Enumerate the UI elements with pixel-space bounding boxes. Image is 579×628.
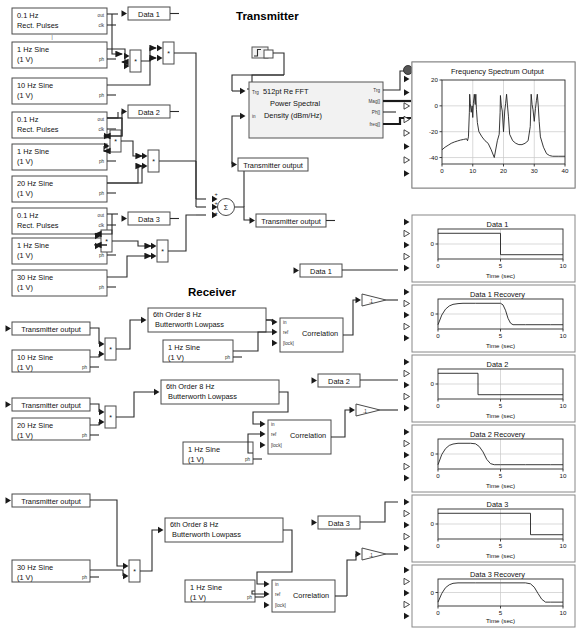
tag-transmitter-output-main-input-arrow xyxy=(250,217,256,223)
source-block-1hz-sine-3-port-ph: ph xyxy=(99,253,105,258)
source-block-0.1hz-rect-pulses-2-port-out: out xyxy=(98,117,105,122)
plot-xticklabel-data2: 10 xyxy=(560,402,567,409)
plot-xticklabel-data3_recovery: 0 xyxy=(436,609,440,616)
source-block-1hz-sine-1-port-ph: ph xyxy=(99,57,105,62)
corr-rx3-lock-arrow xyxy=(264,602,270,608)
tag-transmitter-output-main-label: Transmitter output xyxy=(261,217,321,226)
source-block-0.1hz-rect-pulses-1-line2: Rect. Pulses xyxy=(17,21,59,30)
multiplier-rx2-in2-arrow xyxy=(99,419,105,425)
scope-input-port xyxy=(404,613,410,619)
plot-yticklabel-data3: 0 xyxy=(431,520,435,527)
source-block-1hz-sine-1-line2: (1 V) xyxy=(17,55,33,64)
plot-title-data3: Data 3 xyxy=(487,500,509,509)
plot-yticklabel-spectrum: -20 xyxy=(429,128,439,135)
source-block-30hz-sine-3-line1: 30 Hz Sine xyxy=(17,273,53,282)
source-block-0.1hz-rect-pulses-3-line2: Rect. Pulses xyxy=(17,221,59,230)
scope-input-port xyxy=(404,130,410,136)
multiplier-rx1-in1-arrow xyxy=(99,341,105,347)
scope-input-port xyxy=(404,359,410,365)
fft-out-port-trg: Trg xyxy=(373,88,380,93)
goto-tag-data-1-tx-input-arrow xyxy=(122,10,128,16)
from-tag-data-2-rx-label: Data 2 xyxy=(328,377,350,386)
wire-src1-to-mul1a xyxy=(107,49,125,62)
from-tag-data-2-rx-input-arrow xyxy=(312,377,318,383)
correlation-rx2-port-in: in xyxy=(271,422,275,427)
correlation-rx1-port-ref: ref xyxy=(283,330,289,335)
corr-rx2-ref-arrow xyxy=(260,431,266,437)
scope-input-port xyxy=(404,242,410,248)
correlation-rx3-port-in: in xyxy=(275,582,279,587)
scope-input-port xyxy=(404,312,410,318)
plot-xticklabel-data2_recovery: 5 xyxy=(499,472,503,479)
wire-src3-b xyxy=(107,112,122,118)
corr-rx1-ref-arrow xyxy=(272,329,278,335)
plot-xticklabel-data3: 10 xyxy=(560,542,567,549)
filter-rx1-line1: 6th Order 8 Hz xyxy=(153,310,202,319)
scope-input-port xyxy=(404,323,410,329)
multiplier-tx-2b-symbol: * xyxy=(152,158,155,165)
scope-input-port xyxy=(404,590,410,596)
scope-input-port xyxy=(404,475,410,481)
source-block-1hz-sine-3-line2: (1 V) xyxy=(17,251,33,260)
plot-xticklabel-data3: 0 xyxy=(436,542,440,549)
multiplier-tx-1a-in2-arrow xyxy=(124,63,130,69)
fft-in-port-in: in xyxy=(252,114,256,119)
wire-src0-to-mul1a xyxy=(112,14,122,54)
plot-xticklabel-data1: 0 xyxy=(436,262,440,269)
correlation-rx3-port-lock: [lock] xyxy=(275,603,286,608)
source-block-0.1hz-rect-pulses-2-line2: Rect. Pulses xyxy=(17,125,59,134)
plot-xlabel-data2: Time (sec) xyxy=(486,412,515,419)
plot-xticklabel-data2: 5 xyxy=(499,402,503,409)
source-block-20hz-sine-2-line2: (1 V) xyxy=(17,189,33,198)
goto-tag-data-3-tx-label: Data 3 xyxy=(138,215,160,224)
plot-xticklabel-data2: 0 xyxy=(436,402,440,409)
gain-block-rx3[interactable] xyxy=(362,548,386,560)
multiplier-rx2-in1-arrow xyxy=(99,409,105,415)
wire-rx2-sine-to-mul xyxy=(90,422,99,425)
source-block-30hz-sine-3-port-ph: ph xyxy=(99,285,105,290)
plot-xticklabel-data1: 10 xyxy=(560,262,567,269)
wire-src3-a xyxy=(107,112,118,118)
source-block-10hz-sine-1-line1: 10 Hz Sine xyxy=(17,81,53,90)
correlation-rx2-port-ref: ref xyxy=(271,432,277,437)
wire-mul3b-to-sum xyxy=(168,215,196,251)
gain-block-rx1-label: .1 xyxy=(369,299,373,304)
correlation-rx1-port-lock: [lock] xyxy=(283,341,294,346)
corr-rx2-in-arrow xyxy=(260,421,266,427)
diagram-canvas: Transmitter0.1 HzRect. Pulsesoutclk1 Hz … xyxy=(0,0,579,628)
plot-title-data1: Data 1 xyxy=(487,220,509,229)
multiplier-rx1-symbol: * xyxy=(109,346,112,353)
scope-input-port xyxy=(404,499,410,505)
gain-block-rx1[interactable] xyxy=(362,294,386,306)
filter-rx1-line2: Butterworth Lowpass xyxy=(155,320,224,329)
from-tag-data-1-rx-input-arrow xyxy=(294,267,300,273)
plot-xticklabel-data2_recovery: 10 xyxy=(560,472,567,479)
scope-input-port xyxy=(404,567,410,573)
plot-xlabel-data3: Time (sec) xyxy=(486,552,515,559)
wire-mul1a-to-mul1b xyxy=(141,48,156,61)
from-tag-transmitter-output-rx1-input-arrow xyxy=(6,325,12,331)
plot-xticklabel-data1_recovery: 0 xyxy=(436,332,440,339)
source-block-1hz-sine-2-line2: (1 V) xyxy=(17,157,33,166)
plot-yticklabel-spectrum: 20 xyxy=(431,76,438,83)
fft-line1: 512pt Re FFT xyxy=(263,87,309,96)
scope-input-port xyxy=(404,300,410,306)
wire-src5-to-mul2b xyxy=(107,166,142,183)
source-block-30hz-sine-rx3-line2: (1 V) xyxy=(17,573,33,582)
wire-rx1-ref-to-corr xyxy=(233,332,272,351)
scope-input-port xyxy=(404,219,410,225)
wire-mul1b-to-sum xyxy=(174,53,196,199)
plot-xticklabel-spectrum: 30 xyxy=(531,167,538,174)
source-block-30hz-sine-rx3-line1: 30 Hz Sine xyxy=(17,563,53,572)
corr-rx2-lock-arrow xyxy=(260,442,266,448)
goto-tag-data-3-tx-input-arrow xyxy=(122,215,128,221)
from-tag-transmitter-output-rx1-label: Transmitter output xyxy=(21,325,81,334)
plot-yticklabel-data3_recovery: 0 xyxy=(431,589,435,596)
scope-input-port xyxy=(404,533,410,539)
correlation-rx2-label: Correlation xyxy=(290,431,326,440)
plot-yticklabel-data1: 0 xyxy=(431,240,435,247)
gain-block-rx2[interactable] xyxy=(356,404,380,416)
multiplier-tx-3a-symbol: * xyxy=(105,238,108,245)
wire-sum-out xyxy=(235,207,252,220)
plot-xticklabel-spectrum: 40 xyxy=(562,167,569,174)
